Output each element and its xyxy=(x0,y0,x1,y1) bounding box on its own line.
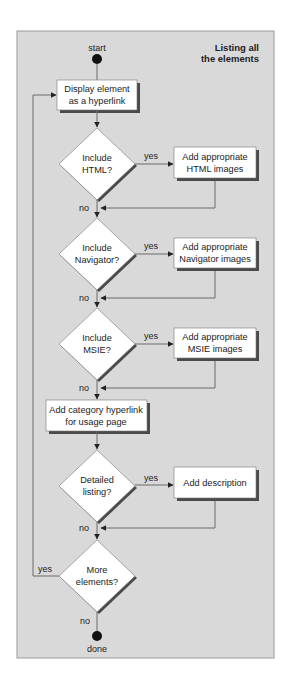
svg-text:MSIE?: MSIE? xyxy=(83,345,111,355)
more-no-label: no xyxy=(80,616,90,626)
flowchart: Listing all the elements start Display e… xyxy=(0,0,290,687)
svg-text:Include: Include xyxy=(82,243,112,253)
svg-text:Include: Include xyxy=(82,333,112,343)
svg-text:HTML?: HTML? xyxy=(82,165,112,175)
nav-yes-label: yes xyxy=(144,241,159,251)
end-dot-icon xyxy=(92,631,102,641)
svg-text:Add appropriate: Add appropriate xyxy=(182,152,247,162)
svg-text:Add appropriate: Add appropriate xyxy=(182,332,247,342)
nav-no-label: no xyxy=(79,293,89,303)
svg-text:Navigator?: Navigator? xyxy=(75,255,119,265)
detail-no-label: no xyxy=(79,523,89,533)
html-yes-label: yes xyxy=(144,151,159,161)
svg-text:MSIE images: MSIE images xyxy=(188,344,243,354)
html-no-label: no xyxy=(79,203,89,213)
svg-text:More: More xyxy=(87,565,108,575)
svg-text:Include: Include xyxy=(82,153,112,163)
msie-yes-label: yes xyxy=(144,331,159,341)
svg-text:HTML images: HTML images xyxy=(187,164,244,174)
svg-text:Add category hyperlink: Add category hyperlink xyxy=(49,405,143,415)
detail-yes-label: yes xyxy=(144,473,159,483)
svg-text:Add appropriate: Add appropriate xyxy=(182,242,247,252)
diagram-title-line2: the elements xyxy=(201,53,259,64)
more-yes-label: yes xyxy=(38,564,53,574)
svg-text:elements?: elements? xyxy=(76,577,118,587)
svg-text:Display element: Display element xyxy=(64,84,130,94)
node-add-navigator-images: Add appropriate Navigator images xyxy=(174,238,259,271)
diagram-title-line1: Listing all xyxy=(215,42,259,53)
start-dot-icon xyxy=(92,54,102,64)
start-label: start xyxy=(88,43,106,53)
node-add-description: Add description xyxy=(174,467,259,501)
svg-text:Detailed: Detailed xyxy=(80,475,114,485)
svg-text:listing?: listing? xyxy=(83,487,112,497)
node-add-category-hyperlink: Add category hyperlink for usage page xyxy=(46,400,150,434)
svg-text:Navigator images: Navigator images xyxy=(179,254,251,264)
node-display-element: Display element as a hyperlink xyxy=(57,80,140,113)
svg-text:as a hyperlink: as a hyperlink xyxy=(69,96,126,106)
end-label: done xyxy=(87,644,107,654)
node-add-html-images: Add appropriate HTML images xyxy=(174,147,259,181)
msie-no-label: no xyxy=(79,383,89,393)
svg-text:for usage page: for usage page xyxy=(65,417,126,427)
svg-text:Add description: Add description xyxy=(183,478,246,488)
node-add-msie-images: Add appropriate MSIE images xyxy=(174,328,259,361)
